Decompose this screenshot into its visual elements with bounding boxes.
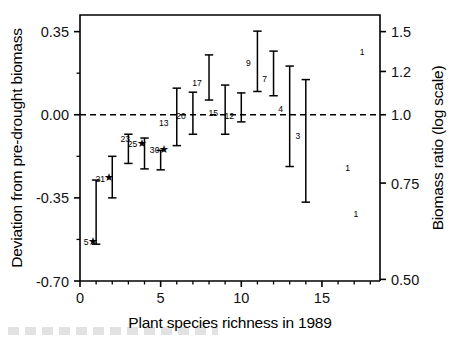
data-point-label: 9	[246, 58, 251, 68]
plot-frame	[80, 15, 380, 281]
y-tick-label: -0.70	[36, 274, 69, 290]
significance-star-icon: ★	[88, 235, 98, 247]
y-axis-title: Deviation from pre-drought biomass	[8, 28, 25, 268]
x-tick-label: 0	[76, 290, 84, 306]
y2-tick-label: 1.5	[391, 24, 411, 40]
data-point-label: 12	[225, 111, 235, 121]
y2-tick-label: 1.2	[391, 64, 411, 80]
y-tick-label: 0.00	[41, 107, 69, 123]
y-tick-label: -0.35	[36, 190, 69, 206]
significance-star-icon: ★	[137, 137, 147, 149]
single-observation-label: 1	[353, 209, 358, 219]
y2-tick-label: 0.75	[391, 176, 419, 192]
data-point-label: 17	[192, 78, 202, 88]
x-tick-label: 5	[157, 290, 165, 306]
y-tick-label: 0.35	[41, 24, 69, 40]
y2-tick-label: 1.0	[391, 107, 411, 123]
data-point-label: 4	[278, 104, 283, 114]
data-point-label: 20	[176, 111, 186, 121]
significance-star-icon: ★	[104, 171, 114, 183]
data-point-label: 15	[208, 108, 218, 118]
significance-star-icon: ★	[159, 143, 169, 155]
data-point-label: 13	[159, 118, 169, 128]
data-point-label: 7	[262, 74, 267, 84]
caption-ghost-line	[8, 327, 218, 335]
drought-biomass-scatter-figure: 0510150.350.00-0.35-0.701.51.21.00.750.5…	[0, 0, 458, 339]
single-observation-label: 1	[345, 163, 350, 173]
y2-axis-title: Biomass ratio (log scale)	[429, 66, 446, 231]
x-tick-label: 10	[233, 290, 249, 306]
single-observation-label: 1	[360, 47, 365, 57]
y2-tick-label: 0.50	[391, 272, 419, 288]
data-point-label: 3	[295, 131, 300, 141]
x-tick-label: 15	[314, 290, 330, 306]
